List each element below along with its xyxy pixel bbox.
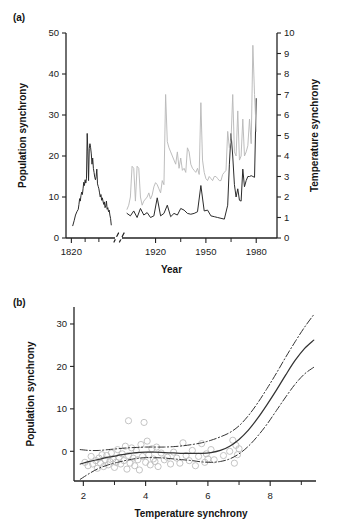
svg-text:0: 0 <box>54 232 59 243</box>
svg-text:0: 0 <box>284 232 289 243</box>
svg-text:20: 20 <box>56 361 67 372</box>
svg-text:20: 20 <box>48 150 59 161</box>
svg-text:8: 8 <box>284 68 289 79</box>
svg-text:1820: 1820 <box>61 246 82 257</box>
svg-text:50: 50 <box>48 27 59 38</box>
figure-container: (a) 010203040500123456789101820192019501… <box>0 0 341 519</box>
svg-text:10: 10 <box>56 403 67 414</box>
svg-text:0: 0 <box>62 446 67 457</box>
panel-b-plot: 01020302468Temperature synchronyPopulati… <box>0 285 341 519</box>
svg-text:10: 10 <box>284 27 295 38</box>
svg-text:6: 6 <box>284 109 289 120</box>
svg-text:4: 4 <box>143 490 148 501</box>
svg-text:Temperature synchrony: Temperature synchrony <box>309 78 320 192</box>
svg-text:8: 8 <box>268 490 273 501</box>
svg-text:6: 6 <box>205 490 210 501</box>
svg-text:3: 3 <box>284 171 289 182</box>
svg-text:Year: Year <box>161 264 182 275</box>
svg-text:2: 2 <box>284 191 289 202</box>
svg-text:30: 30 <box>56 318 67 329</box>
svg-text:5: 5 <box>284 130 289 141</box>
svg-text:4: 4 <box>284 150 289 161</box>
svg-text:1: 1 <box>284 212 289 223</box>
svg-text:40: 40 <box>48 68 59 79</box>
panel-a-plot: 010203040500123456789101820192019501980Y… <box>0 0 341 285</box>
svg-text:30: 30 <box>48 109 59 120</box>
svg-text:7: 7 <box>284 89 289 100</box>
svg-text:1980: 1980 <box>246 246 267 257</box>
svg-text:1950: 1950 <box>195 246 216 257</box>
svg-text:1920: 1920 <box>145 246 166 257</box>
panel-b: (b) 01020302468Temperature synchronyPopu… <box>0 285 341 519</box>
svg-text:Temperature synchrony: Temperature synchrony <box>134 508 248 519</box>
svg-text:2: 2 <box>81 490 86 501</box>
panel-a: (a) 010203040500123456789101820192019501… <box>0 0 341 285</box>
svg-text:10: 10 <box>48 191 59 202</box>
svg-text:Population synchrony: Population synchrony <box>17 83 28 188</box>
svg-text:Population synchrony: Population synchrony <box>25 341 36 446</box>
svg-text:9: 9 <box>284 48 289 59</box>
